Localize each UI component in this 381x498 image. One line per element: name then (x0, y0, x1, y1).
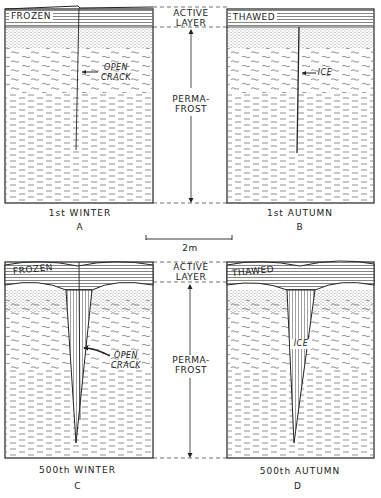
callout-line1: OPEN (106, 351, 146, 361)
permafrost-label-line2: FROST (160, 104, 222, 114)
callout-ice-d: ICE (290, 339, 312, 349)
scale-bar-label: 2m (170, 243, 210, 253)
active-layer-label-top: ACTIVE LAYER (160, 8, 222, 28)
permafrost-label-bottom: PERMA- FROST (160, 355, 222, 375)
panel-b (227, 9, 374, 203)
active-label-line2: LAYER (160, 272, 222, 282)
panel-d (227, 261, 374, 458)
callout-ice-b: ICE (314, 68, 336, 78)
permafrost-label-line1: PERMA- (160, 355, 222, 365)
callout-line2: CRACK (96, 73, 136, 83)
permafrost-label-line1: PERMA- (160, 94, 222, 104)
callout-open-crack-a: OPEN CRACK (96, 63, 136, 83)
panel-a (5, 6, 153, 203)
callout-open-crack-c: OPEN CRACK (106, 351, 146, 371)
letter-c: C (58, 481, 98, 491)
surface-label-b: THAWED (231, 12, 277, 22)
letter-d: D (278, 481, 318, 491)
caption-c: 500th WINTER (15, 465, 140, 475)
active-layer-label-bottom: ACTIVE LAYER (160, 262, 222, 282)
surface-label-a: FROZEN (9, 11, 53, 21)
permafrost-label-line2: FROST (160, 365, 222, 375)
active-label-line1: ACTIVE (160, 8, 222, 18)
scale-bar (146, 235, 232, 240)
caption-b: 1st AUTUMN (240, 208, 360, 218)
letter-a: A (60, 222, 100, 232)
callout-line2: CRACK (106, 361, 146, 371)
permafrost-label-top: PERMA- FROST (160, 94, 222, 114)
caption-a: 1st WINTER (20, 208, 140, 218)
letter-b: B (280, 222, 320, 232)
callout-line1: OPEN (96, 63, 136, 73)
active-label-line2: LAYER (160, 18, 222, 28)
active-label-line1: ACTIVE (160, 262, 222, 272)
caption-d: 500th AUTUMN (235, 466, 365, 476)
